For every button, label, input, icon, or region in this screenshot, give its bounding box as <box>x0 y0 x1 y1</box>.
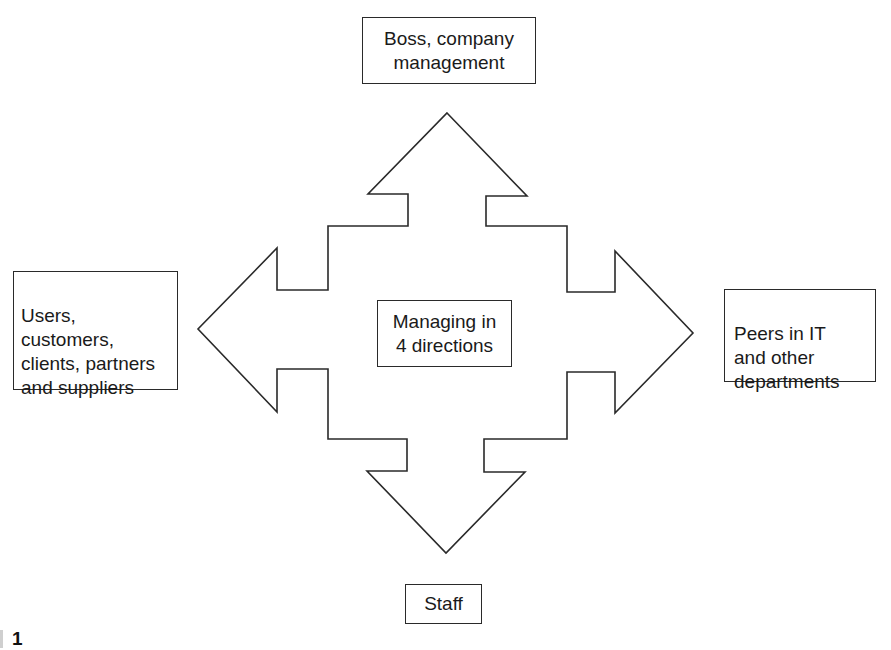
node-users-customers-clients: Users, customers, clients, partners and … <box>13 271 178 390</box>
node-peers-in-it: Peers in IT and other departments <box>724 289 876 382</box>
node-label: Peers in IT and other departments <box>734 323 840 392</box>
node-managing-in-4-directions: Managing in 4 directions <box>377 300 512 367</box>
node-label: Boss, company management <box>384 27 514 75</box>
caption-bar <box>0 630 3 648</box>
node-boss-company-management: Boss, company management <box>362 17 536 84</box>
node-staff: Staff <box>405 584 482 624</box>
node-label: Managing in 4 directions <box>393 310 497 358</box>
figure-caption: 1 <box>0 628 23 650</box>
node-label: Users, customers, clients, partners and … <box>21 305 155 398</box>
caption-text: 1 <box>12 628 23 649</box>
node-label: Staff <box>424 592 463 616</box>
